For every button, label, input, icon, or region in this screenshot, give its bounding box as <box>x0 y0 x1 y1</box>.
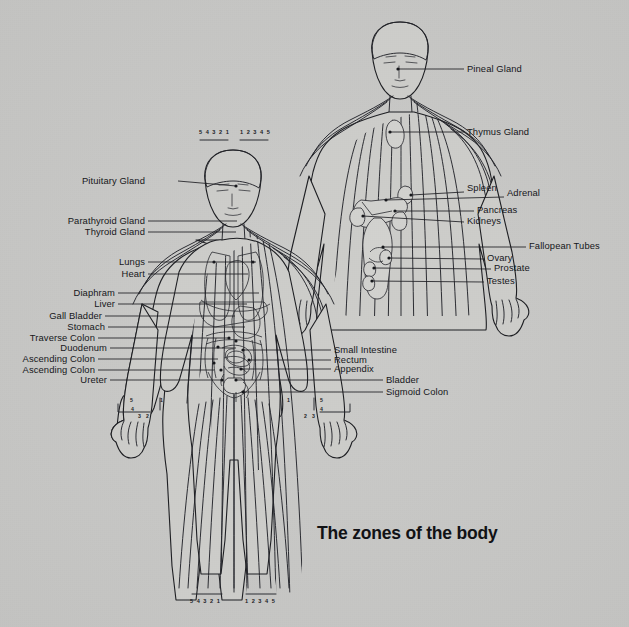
zone-number-right-hand-1: 1 <box>287 398 290 403</box>
label-ascending-colon-2: Ascending Colon <box>23 365 95 374</box>
label-small-intestine: Small Intestine <box>334 345 397 354</box>
zone-number-right-hand-2: 2 <box>304 414 307 419</box>
label-duodenum: Duodenum <box>60 343 107 352</box>
label-pineal-gland: Pineal Gland <box>467 64 522 73</box>
label-gall-bladder: Gall Bladder <box>49 311 102 320</box>
label-pancreas: Pancreas <box>477 205 517 214</box>
zone-number-right-hand-5: 5 <box>320 398 323 403</box>
zone-numbers-feet-right: 1 2 3 4 5 <box>245 599 276 605</box>
label-stomach: Stomach <box>67 322 105 331</box>
label-appendix: Appendix <box>334 364 374 373</box>
label-ureter: Ureter <box>80 375 107 384</box>
front-figure-head <box>205 150 261 241</box>
thymus-organ <box>386 120 404 148</box>
label-adrenal: Adrenal <box>507 188 540 197</box>
zone-numbers-feet-left: 5 4 3 2 1 <box>190 599 221 605</box>
label-sigmoid-colon: Sigmoid Colon <box>386 387 448 396</box>
zone-number-left-hand-3: 3 <box>138 414 141 419</box>
label-liver: Liver <box>94 299 115 308</box>
torso-figure-head <box>372 22 428 113</box>
zone-number-left-hand-4: 4 <box>131 407 134 412</box>
label-spleen: Spleen <box>467 183 497 192</box>
label-thymus-gland: Thymus Gland <box>467 127 529 136</box>
testes-organ <box>363 276 375 291</box>
label-pituitary-gland: Pituitary Gland <box>82 176 145 185</box>
zone-number-right-hand-4: 4 <box>320 407 323 412</box>
label-ascending-colon-1: Ascending Colon <box>23 354 95 363</box>
diagram-title: The zones of the body <box>317 523 498 544</box>
zone-numbers-head-left: 5 4 3 2 1 <box>199 130 230 136</box>
label-heart: Heart <box>122 269 145 278</box>
label-thyroid-gland: Thyroid Gland <box>85 227 145 236</box>
label-lungs: Lungs <box>119 257 145 266</box>
label-testes: Testes <box>487 276 515 285</box>
diagram-page: .ln { fill:none; stroke:#1d1e22; stroke-… <box>0 0 629 627</box>
label-prostate: Prostate <box>494 263 530 272</box>
label-bladder: Bladder <box>386 375 419 384</box>
kidney-right-organ <box>392 212 407 230</box>
label-fallopean-tubes: Fallopean Tubes <box>529 241 600 250</box>
label-kidneys: Kidneys <box>467 216 501 225</box>
zone-number-left-hand-2: 2 <box>146 414 149 419</box>
label-diaphram: Diaphram <box>74 288 115 297</box>
label-parathyroid-gland: Parathyroid Gland <box>68 216 145 225</box>
zone-number-left-hand-5: 5 <box>130 398 133 403</box>
zone-numbers-head-right: 1 2 3 4 5 <box>240 130 271 136</box>
label-ovary: Ovary <box>487 253 513 262</box>
zone-number-right-hand-3: 3 <box>312 414 315 419</box>
zone-number-left-hand-1: 1 <box>160 398 163 403</box>
label-traverse-colon: Traverse Colon <box>30 333 95 342</box>
